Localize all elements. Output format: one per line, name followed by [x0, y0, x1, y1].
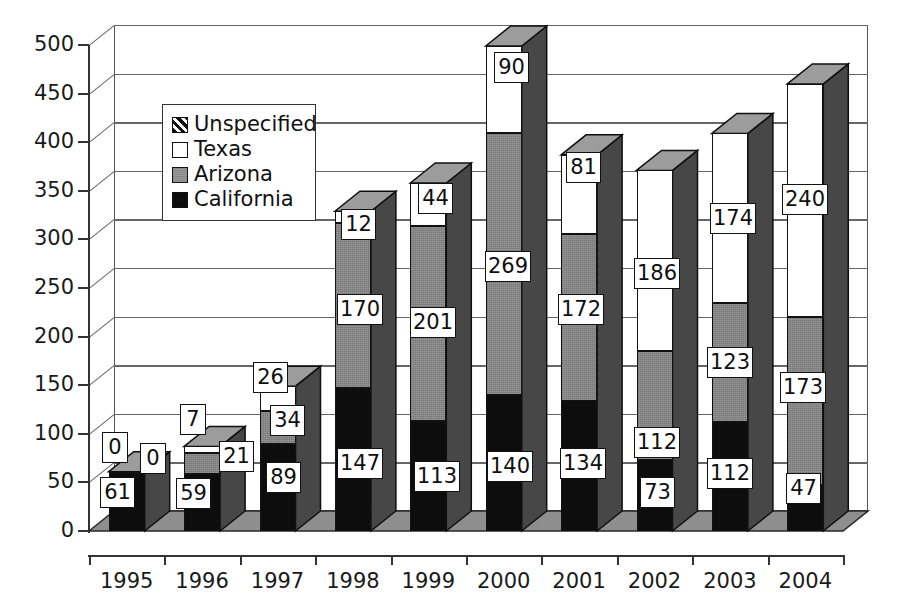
california-swatch-icon [172, 192, 188, 208]
value-label-2003-arizona: 123 [707, 347, 753, 378]
value-label-1999-california: 113 [414, 461, 460, 492]
legend-item-california[interactable]: California [172, 187, 304, 212]
value-label-2001-texas: 81 [566, 152, 601, 183]
value-label-1996-texas: 7 [180, 404, 206, 435]
legend-item-arizona[interactable]: Arizona [172, 162, 304, 187]
value-label-2000-california: 140 [487, 451, 533, 482]
value-label-2001-arizona: 172 [558, 294, 604, 325]
value-label-2002-california: 73 [640, 477, 675, 508]
xtick-mark-2002 [617, 555, 619, 565]
xtick-label-1999: 1999 [386, 571, 470, 592]
xtick-mark-1995 [89, 555, 91, 565]
xtick-label-2004: 2004 [763, 571, 847, 592]
legend-item-texas[interactable]: Texas [172, 137, 304, 162]
legend-label-unspecified: Unspecified [194, 114, 317, 135]
value-label-1999-arizona: 201 [410, 307, 456, 338]
value-label-2000-arizona: 269 [485, 251, 531, 282]
value-label-1997-texas: 26 [253, 362, 288, 393]
value-label-2001-california: 134 [560, 448, 606, 479]
legend-item-unspecified[interactable]: Unspecified [172, 112, 304, 137]
xtick-mark-2000 [466, 555, 468, 565]
xtick-label-1998: 1998 [311, 571, 395, 592]
xtick-mark-1997 [240, 555, 242, 565]
xtick-label-2003: 2003 [688, 571, 772, 592]
xtick-mark-1996 [164, 555, 166, 565]
value-label-1998-arizona: 170 [337, 294, 383, 325]
value-label-2002-texas: 186 [634, 258, 680, 289]
xtick-label-1995: 1995 [85, 571, 169, 592]
xtick-mark-2001 [541, 555, 543, 565]
value-label-1998-california: 147 [337, 448, 383, 479]
xtick-mark-2003 [692, 555, 694, 565]
xtick-label-1996: 1996 [160, 571, 244, 592]
texas-swatch-icon [172, 142, 188, 158]
value-label-2000-texas: 90 [494, 52, 529, 83]
value-label-1995-texas: 0 [140, 443, 166, 474]
value-label-2004-california: 47 [786, 473, 821, 504]
value-label-2004-arizona: 173 [780, 372, 826, 403]
stacked-bar-chart: 0501001502002503003504004505000061721592… [0, 0, 903, 603]
xtick-label-1997: 1997 [236, 571, 320, 592]
xtick-mark-end [843, 555, 845, 565]
legend-label-texas: Texas [194, 139, 252, 160]
value-label-1996-california: 59 [176, 478, 211, 509]
xtick-label-2001: 2001 [537, 571, 621, 592]
legend-label-arizona: Arizona [194, 164, 273, 185]
value-label-1997-california: 89 [266, 462, 301, 493]
value-label-2003-california: 112 [707, 458, 753, 489]
xtick-label-2000: 2000 [462, 571, 546, 592]
legend-label-california: California [194, 189, 294, 210]
value-label-1995-california: 61 [100, 477, 135, 508]
value-label-2003-texas: 174 [710, 203, 756, 234]
value-label-1996-arizona: 21 [219, 441, 254, 472]
xtick-mark-1998 [315, 555, 317, 565]
arizona-swatch-icon [172, 167, 188, 183]
value-label-2004-texas: 240 [782, 184, 828, 215]
chart-legend: UnspecifiedTexasArizonaCalifornia [162, 104, 316, 221]
unspecified-swatch-icon [172, 117, 188, 133]
value-label-1998-texas: 12 [341, 209, 376, 240]
xtick-mark-2004 [768, 555, 770, 565]
bar-side-face-2004 [0, 0, 903, 603]
value-label-2002-arizona: 112 [634, 427, 680, 458]
xtick-mark-1999 [391, 555, 393, 565]
xtick-label-2002: 2002 [613, 571, 697, 592]
value-label-1995-arizona: 0 [102, 432, 128, 463]
value-label-1999-texas: 44 [418, 183, 453, 214]
value-label-1997-arizona: 34 [270, 405, 305, 436]
